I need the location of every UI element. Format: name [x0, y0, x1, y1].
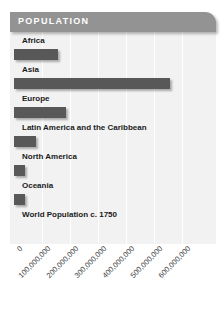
bar-label-oceania: Oceania [22, 181, 53, 190]
bar-label-north-america: North America [22, 152, 77, 161]
bar-north-america [14, 165, 25, 176]
bar-label-africa: Africa [22, 36, 45, 45]
gridline-500m [154, 32, 155, 244]
x-axis-tick-labels: 0 100,000,000 200,000,000 300,000,000 40… [10, 244, 224, 324]
gridline-400m [126, 32, 127, 244]
bar-oceania [14, 194, 25, 205]
plot-area: Africa Asia Europe Latin America and the… [10, 32, 216, 244]
bar-label-asia: Asia [22, 65, 39, 74]
bar-label-world-population: World Population c. 1750 [22, 210, 117, 219]
chart-header-band: POPULATION [10, 12, 216, 32]
chart-title: POPULATION [18, 16, 89, 26]
population-bar-chart-figure: POPULATION Africa Asia Europe Latin Amer… [0, 0, 224, 331]
tick-label-0: 0 [15, 244, 24, 253]
bar-africa [14, 49, 58, 60]
bar-asia [14, 78, 170, 89]
gridline-600m [182, 32, 183, 244]
bar-europe [14, 107, 66, 118]
bar-label-europe: Europe [22, 94, 50, 103]
bar-label-latin-america: Latin America and the Caribbean [22, 123, 147, 132]
bar-latin-america [14, 136, 36, 147]
